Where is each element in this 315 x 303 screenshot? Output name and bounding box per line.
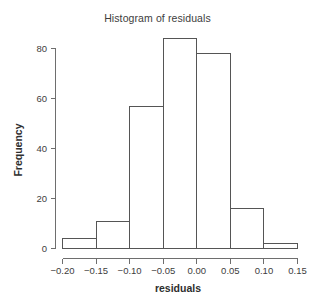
y-tick-labels: 020406080 (36, 43, 55, 254)
histogram-bar (163, 39, 197, 249)
bars-group (63, 39, 298, 249)
y-tick-label: 20 (36, 193, 47, 204)
x-tick-label: 0.15 (288, 265, 307, 276)
x-tick-labels: −0.20−0.15−0.10−0.050.000.050.100.15 (50, 259, 306, 276)
x-tick-label: −0.20 (50, 265, 74, 276)
histogram-bar (230, 209, 264, 249)
plot-canvas: 020406080 −0.20−0.15−0.10−0.050.000.050.… (0, 0, 315, 303)
x-tick-label: 0.00 (188, 265, 207, 276)
histogram-bar (264, 244, 298, 249)
histogram-bar (63, 239, 97, 249)
x-axis-title: residuals (155, 282, 201, 294)
y-tick-label: 60 (36, 93, 47, 104)
y-axis-title: Frequency (12, 123, 24, 176)
y-tick-label: 40 (36, 143, 47, 154)
histogram-figure: Histogram of residuals 020406080 −0.20−0… (0, 0, 315, 303)
histogram-bar (197, 54, 231, 249)
x-tick-label: −0.05 (151, 265, 175, 276)
y-tick-label: 0 (42, 243, 47, 254)
y-tick-label: 80 (36, 43, 47, 54)
x-tick-label: 0.05 (221, 265, 240, 276)
x-tick-label: 0.10 (255, 265, 274, 276)
histogram-bar (96, 221, 130, 249)
histogram-bar (130, 106, 164, 249)
x-tick-label: −0.10 (118, 265, 142, 276)
x-tick-label: −0.15 (84, 265, 108, 276)
